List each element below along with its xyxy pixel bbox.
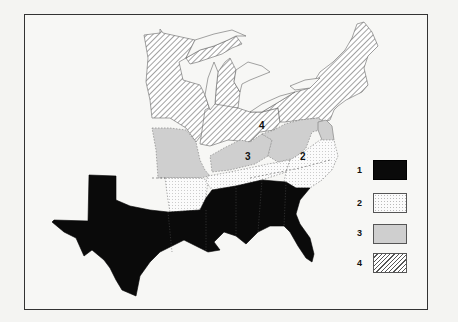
map-region-label-4: 4 bbox=[259, 120, 265, 131]
legend-label-2: 2 bbox=[352, 198, 362, 208]
legend-swatch-light-gray bbox=[373, 224, 407, 244]
legend-label-4: 4 bbox=[352, 258, 362, 268]
legend-swatch-dotted bbox=[373, 193, 407, 213]
legend-label-1: 1 bbox=[352, 165, 362, 175]
legend-swatch-diagonal-hatch bbox=[373, 253, 407, 273]
legend-label-3: 3 bbox=[352, 228, 362, 238]
legend-swatch-solid-black bbox=[373, 160, 407, 180]
map-region-label-3: 3 bbox=[245, 151, 251, 162]
map-region-label-2: 2 bbox=[300, 151, 306, 162]
